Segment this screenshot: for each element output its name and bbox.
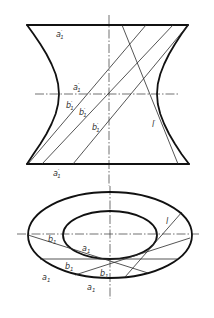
left-contour-hyperbola — [27, 25, 59, 164]
top-view: l b1 a1 b1 a1 b1 a1 — [17, 186, 199, 299]
label-b1-prime-1: b′1 — [66, 100, 74, 112]
label-a1-bottom: a1 — [87, 283, 95, 293]
label-b1-3: b1 — [100, 269, 109, 279]
label-l-prime: l′ — [152, 119, 156, 130]
label-a1-prime-waist: a′1 — [73, 82, 81, 94]
label-a1-inner: a1 — [82, 244, 90, 254]
label-b1-prime-3: b′1 — [92, 122, 100, 134]
label-b1-1: b1 — [48, 235, 57, 245]
label-b1-prime-2: b′1 — [79, 107, 87, 119]
label-l: l — [166, 217, 169, 226]
right-contour-hyperbola — [157, 25, 189, 164]
label-a1-left: a1 — [42, 273, 50, 283]
generator-line-b1-a — [28, 25, 146, 164]
generator-line-b1-b — [42, 25, 173, 164]
plan-line-l — [125, 212, 182, 277]
label-a1-prime-bottom: a′1 — [53, 168, 61, 180]
label-a1-prime-top: a′1 — [56, 29, 64, 41]
label-b1-2: b1 — [65, 262, 74, 272]
hyperboloid-projection-diagram: a′1 a′1 b′1 b′1 b′1 l′ a′1 l b1 a1 b1 a1… — [0, 0, 214, 318]
front-view: a′1 a′1 b′1 b′1 b′1 l′ a′1 — [27, 15, 189, 186]
plan-line-b1-a — [28, 235, 148, 273]
